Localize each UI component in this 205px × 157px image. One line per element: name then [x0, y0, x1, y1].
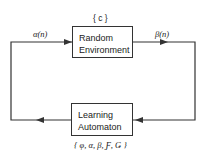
environment-parameter: { c } — [93, 13, 108, 23]
arrow-into-environment — [64, 39, 72, 45]
arrow-feedback — [36, 117, 44, 123]
environment-label-1: Random — [79, 32, 132, 44]
output-label: β(n) — [155, 29, 169, 39]
automaton-parameter: { φ, α, β, Ƒ, Ǥ } — [74, 140, 127, 150]
automaton-label-1: Learning — [78, 109, 132, 121]
environment-box: Random Environment — [72, 26, 133, 58]
automaton-label-2: Automaton — [78, 121, 132, 133]
input-label: α(n) — [33, 29, 47, 39]
automaton-box: Learning Automaton — [71, 103, 133, 136]
arrow-into-automaton — [135, 117, 143, 123]
environment-label-2: Environment — [79, 44, 132, 56]
arrow-output — [160, 39, 168, 45]
